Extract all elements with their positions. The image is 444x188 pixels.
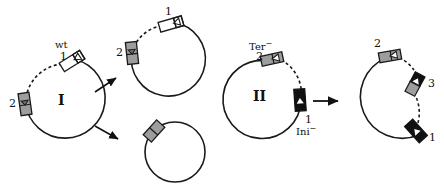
label-product-II-marker-2: 2 <box>374 38 381 49</box>
label-II-marker-2: 2 <box>256 51 263 62</box>
ter-minus-superscript: − <box>266 39 273 48</box>
label-panel-I-roman: I <box>58 93 65 107</box>
marker-I-2 <box>18 92 32 115</box>
label-product-II-marker-3: 3 <box>428 78 435 89</box>
label-panel-II-roman: II <box>253 89 266 103</box>
label-I-marker-2: 2 <box>9 98 16 109</box>
circle-II-product <box>360 49 427 143</box>
marker-product-top-2 <box>125 41 138 64</box>
marker-product-II-1 <box>405 119 428 143</box>
label-wt: wt <box>55 40 68 50</box>
product-top-solid-arc <box>131 23 205 97</box>
circle-I-product-bottom <box>143 120 205 182</box>
marker-product-bottom <box>143 120 165 142</box>
circle-I-product-top <box>125 16 205 96</box>
marker-II-2 <box>260 52 284 66</box>
label-product-top-marker-2: 2 <box>116 47 123 58</box>
arrow-I-to-top-product <box>95 78 116 92</box>
label-I-marker-1: 1 <box>60 51 67 62</box>
arrow-I-to-bottom-product <box>95 126 118 139</box>
ini-minus-superscript: − <box>310 124 317 133</box>
label-ini: Ini− <box>296 125 316 137</box>
label-product-top-marker-1: 1 <box>165 6 172 17</box>
marker-product-II-3 <box>405 72 425 97</box>
marker-II-1 <box>294 89 307 112</box>
marker-product-II-2 <box>378 49 401 63</box>
product-II-dashed-arc-b <box>417 98 420 126</box>
marker-product-top-1 <box>158 16 184 32</box>
figure-canvas <box>0 0 444 188</box>
label-product-II-marker-1: 1 <box>429 132 436 143</box>
